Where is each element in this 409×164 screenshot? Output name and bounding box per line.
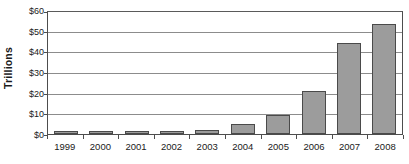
y-axis-tick-label: $20 bbox=[14, 89, 44, 99]
x-axis-tick-label: 2006 bbox=[296, 141, 332, 157]
y-axis-tick-label: $60 bbox=[14, 6, 44, 16]
plot-area bbox=[47, 11, 403, 135]
bar-slot bbox=[225, 12, 260, 134]
bar-slot bbox=[296, 12, 331, 134]
x-axis-tick-mark bbox=[189, 135, 190, 139]
y-axis-title-label: Trillions bbox=[2, 47, 14, 89]
bar bbox=[337, 43, 361, 134]
bar-slot bbox=[190, 12, 225, 134]
bar bbox=[195, 130, 219, 134]
x-axis-tick-label: 2008 bbox=[367, 141, 403, 157]
bar bbox=[89, 131, 113, 134]
x-axis-tick-label: 2004 bbox=[225, 141, 261, 157]
x-axis-tick-labels: 1999200020012002200320042005200620072008 bbox=[47, 141, 403, 157]
y-axis-tick-label: $50 bbox=[14, 27, 44, 37]
bar-slot bbox=[119, 12, 154, 134]
bar-slot bbox=[83, 12, 118, 134]
bar-chart: Trillions $0$10$20$30$40$50$60 199920002… bbox=[0, 0, 409, 164]
x-axis-tick-mark bbox=[261, 135, 262, 139]
bar bbox=[372, 24, 396, 134]
bar bbox=[266, 115, 290, 134]
x-axis-tick-mark bbox=[403, 135, 404, 139]
x-axis-tick-mark bbox=[154, 135, 155, 139]
x-axis-tick-label: 2001 bbox=[118, 141, 154, 157]
y-axis-tick-labels: $0$10$20$30$40$50$60 bbox=[14, 6, 44, 136]
bar-slot bbox=[154, 12, 189, 134]
y-axis-tick-label: $10 bbox=[14, 109, 44, 119]
x-axis-tick-label: 1999 bbox=[47, 141, 83, 157]
bar bbox=[125, 131, 149, 134]
x-axis-tick-mark bbox=[367, 135, 368, 139]
bar-slot bbox=[367, 12, 402, 134]
x-axis-tick-label: 2003 bbox=[189, 141, 225, 157]
x-axis-tick-marks bbox=[47, 135, 403, 139]
x-axis-tick-label: 2005 bbox=[261, 141, 297, 157]
x-axis-tick-mark bbox=[332, 135, 333, 139]
bar bbox=[302, 91, 326, 134]
bar bbox=[54, 131, 78, 134]
x-axis-tick-mark bbox=[296, 135, 297, 139]
bar-slot bbox=[331, 12, 366, 134]
y-axis-tick-label: $0 bbox=[14, 130, 44, 140]
x-axis-tick-mark bbox=[225, 135, 226, 139]
bar bbox=[160, 131, 184, 134]
x-axis-tick-label: 2000 bbox=[83, 141, 119, 157]
x-axis-tick-label: 2007 bbox=[332, 141, 368, 157]
y-axis-tick-label: $30 bbox=[14, 68, 44, 78]
bar-slot bbox=[260, 12, 295, 134]
bar-slot bbox=[48, 12, 83, 134]
x-axis-tick-mark bbox=[118, 135, 119, 139]
x-axis-tick-mark bbox=[83, 135, 84, 139]
bar bbox=[231, 124, 255, 134]
x-axis-tick-mark bbox=[47, 135, 48, 139]
y-axis-tick-label: $40 bbox=[14, 47, 44, 57]
bars-group bbox=[48, 12, 402, 134]
x-axis-tick-label: 2002 bbox=[154, 141, 190, 157]
